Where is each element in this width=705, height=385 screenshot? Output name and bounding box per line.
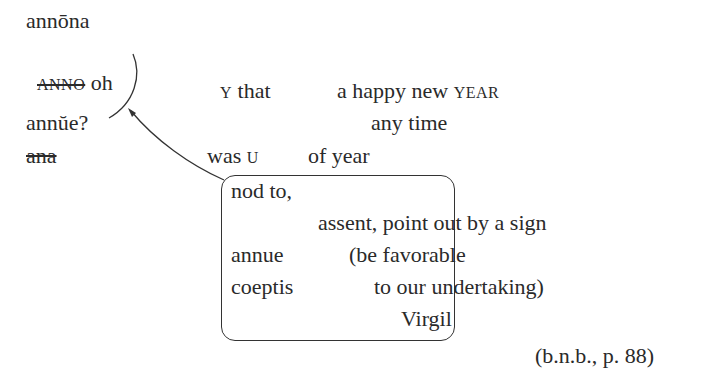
box-line-assent: assent, point out by a sign <box>318 210 547 236</box>
struck-ana-text: ana <box>26 143 57 168</box>
word-annue-question: annŭe? <box>26 110 88 136</box>
word-oh: oh <box>91 70 113 95</box>
box-be-favorable: (be favorable <box>349 242 466 268</box>
word-annona: annōna <box>26 8 90 34</box>
text-was: was <box>207 143 241 168</box>
text-happy-new: a happy new <box>337 78 448 103</box>
box-virgil: Virgil <box>401 306 452 332</box>
box-annue: annue <box>231 242 284 268</box>
cap-u: U <box>247 149 259 166</box>
line-was-u: was U <box>207 143 259 171</box>
box-to-our-undertaking: to our undertaking) <box>374 274 544 300</box>
line-y-that: Y that <box>220 78 271 106</box>
text-that: that <box>238 78 271 103</box>
cap-y: Y <box>220 84 232 101</box>
word-anno-line: ANNO oh <box>26 44 113 98</box>
struck-anno: ANNO <box>37 76 85 93</box>
struck-ana: ana <box>26 143 57 169</box>
box-line-nod-to: nod to, <box>231 178 292 204</box>
citation: (b.n.b., p. 88) <box>535 343 654 369</box>
cap-year: YEAR <box>454 84 500 101</box>
bracket-curve <box>109 54 137 118</box>
box-coeptis: coeptis <box>231 274 293 300</box>
line-any-time: any time <box>371 110 447 136</box>
line-happy-new-year: a happy new YEAR <box>337 78 499 106</box>
line-of-year: of year <box>308 143 370 169</box>
